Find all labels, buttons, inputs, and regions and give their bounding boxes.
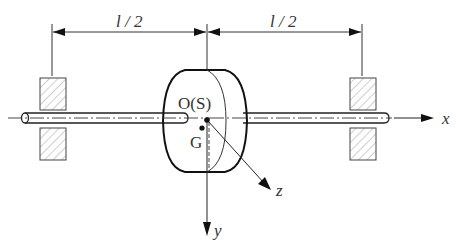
- y-axis: y: [203, 120, 222, 240]
- center-label: O(S): [178, 94, 211, 113]
- x-axis: x: [394, 109, 450, 128]
- y-axis-label: y: [212, 221, 222, 240]
- dimension-label-left: l / 2: [116, 12, 143, 31]
- center-point-O: [204, 117, 210, 123]
- y-axis-arrow-icon: [203, 222, 211, 236]
- arrowhead-icon: [349, 28, 361, 36]
- dimension-right: l / 2: [208, 12, 361, 36]
- left-bearing: [40, 78, 66, 160]
- x-axis-label: x: [441, 109, 450, 128]
- dimension-left: l / 2: [53, 12, 206, 36]
- z-axis-label: z: [275, 181, 283, 200]
- arrowhead-icon: [53, 28, 65, 36]
- dimension-label-right: l / 2: [270, 12, 297, 31]
- x-axis-arrow-icon: [421, 114, 434, 122]
- arrowhead-icon: [208, 28, 220, 36]
- rotor-diagram: l / 2 l / 2 x y: [0, 0, 458, 252]
- right-bearing: [350, 78, 376, 160]
- mass-center-point-G: [199, 125, 204, 130]
- mass-center-label: G: [190, 133, 202, 152]
- arrowhead-icon: [194, 28, 206, 36]
